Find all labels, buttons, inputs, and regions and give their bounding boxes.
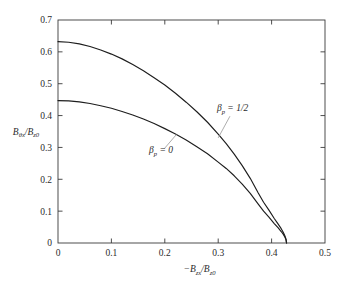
plot-frame bbox=[58, 20, 325, 243]
chart-canvas: 00.10.20.30.40.500.10.20.30.40.50.60.7 β… bbox=[0, 0, 345, 288]
beta-value: = 1/2 bbox=[225, 103, 249, 113]
series-annotation: βp = 0 bbox=[148, 145, 173, 157]
y-tick-label: 0.3 bbox=[40, 143, 52, 153]
data-curve bbox=[58, 42, 287, 243]
x-tick-label: 0 bbox=[56, 248, 61, 258]
y-tick-label: 0.5 bbox=[40, 79, 52, 89]
y-axis-title: Bθx/Bz0 bbox=[13, 127, 40, 139]
annotation-leader-line bbox=[218, 116, 230, 138]
y-tick-label: 0.7 bbox=[40, 15, 52, 25]
series-annotation: βp = 1/2 bbox=[216, 103, 249, 115]
y-tick-label: 0.6 bbox=[40, 47, 52, 57]
y-tick-label: 0 bbox=[47, 238, 52, 248]
x-tick-label: 0.2 bbox=[159, 248, 171, 258]
beta-value: = 0 bbox=[157, 145, 173, 155]
data-curve bbox=[58, 101, 287, 243]
x-axis-title: −Bzx/Bz0 bbox=[183, 264, 216, 276]
annotations-layer: βp = 1/2βp = 0 bbox=[148, 103, 248, 157]
x-tick-label: 0.1 bbox=[105, 248, 117, 258]
x-tick-label: 0.4 bbox=[266, 248, 278, 258]
x-tick-label: 0.5 bbox=[319, 248, 331, 258]
axes-layer: 00.10.20.30.40.500.10.20.30.40.50.60.7 bbox=[40, 15, 331, 258]
y-tick-label: 0.2 bbox=[40, 175, 52, 185]
x-tick-label: 0.3 bbox=[212, 248, 224, 258]
curves-layer bbox=[58, 42, 287, 243]
figure-container: 00.10.20.30.40.500.10.20.30.40.50.60.7 β… bbox=[0, 0, 345, 288]
y-tick-label: 0.4 bbox=[40, 111, 52, 121]
y-tick-label: 0.1 bbox=[40, 207, 52, 217]
